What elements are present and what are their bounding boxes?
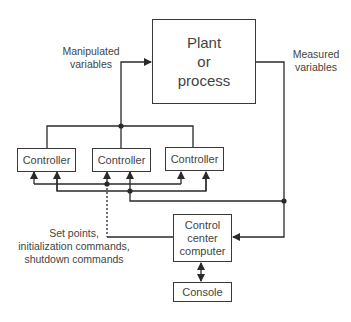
plant-label-3: process [178, 72, 231, 89]
setpoints-label: Set points, initialization commands, shu… [14, 227, 134, 266]
control-center-label-1: Control [185, 219, 220, 231]
control-center-label-3: computer [180, 245, 226, 257]
controller-2-box: Controller [92, 148, 151, 172]
manipulated-variables-label: Manipulated variables [58, 45, 124, 71]
controller-1-box: Controller [17, 148, 76, 172]
plant-box: Plant or process [152, 19, 256, 104]
console-label: Console [182, 286, 222, 299]
plant-label-1: Plant [187, 34, 221, 51]
control-center-label-2: center [187, 232, 218, 244]
controller-3-box: Controller [165, 147, 224, 171]
console-box: Console [173, 282, 232, 302]
plant-label-2: or [197, 53, 210, 70]
control-center-box: Control center computer [173, 214, 232, 262]
measured-variables-label: Measured variables [286, 48, 346, 74]
controller-1-label: Controller [23, 154, 71, 167]
controller-3-label: Controller [171, 153, 219, 166]
controller-2-label: Controller [98, 154, 146, 167]
